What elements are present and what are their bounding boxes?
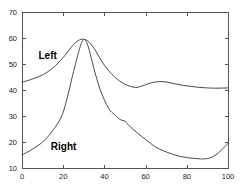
- y-tick-label: 20: [9, 138, 17, 147]
- y-tick-label: 70: [9, 8, 17, 17]
- x-tick-label: 20: [59, 172, 67, 181]
- series-annotations: LeftRight: [38, 50, 77, 152]
- series-line-left: [22, 39, 228, 88]
- x-tick-label: 60: [141, 172, 149, 181]
- line-chart: 02040608010010203040506070 LeftRight: [0, 0, 242, 187]
- x-tick-label: 0: [20, 172, 24, 181]
- plot-canvas: 02040608010010203040506070 LeftRight: [0, 0, 242, 187]
- x-tick-label: 100: [222, 172, 235, 181]
- y-tick-label: 50: [9, 60, 17, 69]
- y-tick-label: 10: [9, 164, 17, 173]
- x-tick-label: 40: [100, 172, 108, 181]
- y-tick-label: 60: [9, 34, 17, 43]
- series-label-left: Left: [38, 50, 57, 61]
- series-label-right: Right: [51, 141, 77, 152]
- x-tick-label: 80: [183, 172, 191, 181]
- y-tick-label: 30: [9, 112, 17, 121]
- tick-labels: 02040608010010203040506070: [9, 8, 235, 181]
- y-tick-label: 40: [9, 86, 17, 95]
